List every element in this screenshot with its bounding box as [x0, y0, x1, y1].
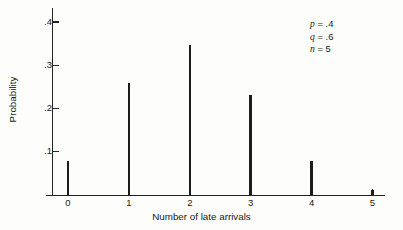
annotation-row: p = .4 — [310, 18, 334, 31]
annotation-value: .6 — [326, 31, 334, 42]
annotation-row: n = 5 — [310, 43, 334, 56]
y-axis-line — [52, 8, 53, 196]
annotation-value: .4 — [326, 18, 334, 29]
annotation-row: q = .6 — [310, 31, 334, 44]
x-axis-tick-label: 3 — [239, 198, 263, 208]
binomial-distribution-chart: .1.2.3.4012345 Probability Number of lat… — [0, 0, 403, 230]
x-axis-tick-label: 1 — [117, 198, 141, 208]
data-bar — [310, 161, 313, 194]
data-bar — [67, 161, 70, 195]
annotation-value: 5 — [326, 43, 331, 54]
y-axis-tick-label-text: .3 — [32, 60, 52, 70]
x-axis-tick-label: 0 — [56, 198, 80, 208]
data-bar — [128, 83, 131, 195]
y-axis-tick — [52, 108, 59, 109]
y-axis-tick-label-text: .4 — [32, 17, 52, 27]
data-bar — [371, 190, 374, 194]
y-axis-title: Probability — [7, 55, 18, 145]
y-axis-tick-label: .4 — [26, 17, 52, 27]
x-axis-line — [46, 195, 385, 196]
x-axis-title: Number of late arrivals — [0, 211, 403, 222]
data-bar — [189, 45, 192, 194]
y-axis-tick-label-text: .1 — [32, 146, 52, 156]
y-axis-tick — [52, 151, 59, 152]
y-axis-tick — [52, 65, 59, 66]
annotation-relation: = — [315, 18, 326, 29]
data-bar — [249, 95, 252, 194]
annotation-relation: = — [315, 31, 326, 42]
y-axis-tick — [52, 21, 59, 22]
y-axis-tick-label: .3 — [26, 60, 52, 70]
x-axis-tick-label: 5 — [361, 198, 385, 208]
y-axis-tick-label: .2 — [26, 103, 52, 113]
x-axis-tick-label: 4 — [300, 198, 324, 208]
y-axis-tick-label: .1 — [26, 146, 52, 156]
parameter-annotations: p = .4q = .6n = 5 — [310, 18, 334, 56]
y-axis-tick-label-text: .2 — [32, 103, 52, 113]
annotation-relation: = — [315, 43, 326, 54]
x-axis-tick-label: 2 — [178, 198, 202, 208]
